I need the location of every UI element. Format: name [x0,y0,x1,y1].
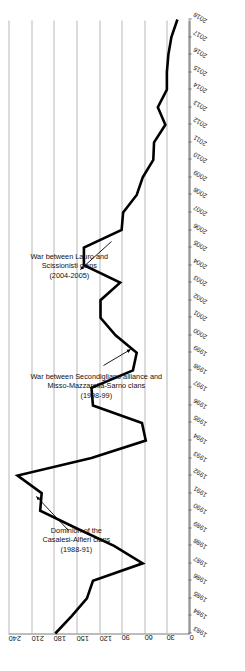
x-tick-label: 1997 [192,378,208,391]
x-tick-label: 2015 [192,63,208,76]
x-tick-label: 1990 [192,501,208,514]
y-tick-label: 180 [53,633,66,641]
x-tick-label: 2014 [192,80,208,93]
x-tick-label: 2012 [192,115,208,128]
annotation-leader-lines [8,19,189,633]
x-tick-label: 2013 [192,98,208,111]
y-tick-label: 90 [121,633,129,641]
x-tick-label: 2004 [192,256,208,269]
x-tick-label: 1983 [192,624,208,637]
y-tick-label: 0 [189,633,193,641]
x-tick-label: 2011 [192,133,208,146]
x-tick-label: 1987 [192,554,208,567]
x-tick-label: 1998 [192,361,208,374]
x-tick-label: 2001 [192,308,208,321]
x-tick-label: 2018 [192,10,208,23]
y-tick-label: 210 [31,633,44,641]
x-tick-label: 1996 [192,396,208,409]
x-tick-label: 1993 [192,449,208,462]
x-tick-label: 2005 [192,238,208,251]
y-tick-label: 30 [166,633,174,641]
x-tick-label: 2000 [192,326,208,339]
x-tick-label: 2009 [192,168,208,181]
x-tick-label: 1986 [192,571,208,584]
line-chart: 0306090120150180210240 19831984198519861… [0,0,245,671]
rotated-chart-canvas: 0306090120150180210240 19831984198519861… [0,0,245,671]
x-tick-label: 1985 [192,589,208,602]
x-tick-label: 2017 [192,28,208,41]
y-tick-label: 240 [8,633,21,641]
leader-line [80,241,111,269]
x-tick-label: 1984 [192,607,208,620]
x-tick-label: 2008 [192,186,208,199]
x-tick-label: 2003 [192,273,208,286]
x-tick-label: 1992 [192,466,208,479]
x-tick-label: 2016 [192,45,208,58]
y-tick-label: 60 [144,633,152,641]
x-tick-label: 1989 [192,519,208,532]
y-tick-label: 150 [76,633,89,641]
leader-line [36,496,68,530]
plot-area: 0306090120150180210240 19831984198519861… [8,20,189,634]
x-tick-label: 2007 [192,203,208,216]
x-tick-label: 1995 [192,414,208,427]
x-tick-label: 1999 [192,343,208,356]
x-tick-label: 2010 [192,150,208,163]
x-tick-label: 2006 [192,221,208,234]
leader-line [103,349,130,365]
x-tick-label: 1991 [192,484,208,497]
x-tick-label: 2002 [192,291,208,304]
x-tick-label: 1994 [192,431,208,444]
x-tick-label: 1988 [192,536,208,549]
y-tick-label: 120 [99,633,112,641]
